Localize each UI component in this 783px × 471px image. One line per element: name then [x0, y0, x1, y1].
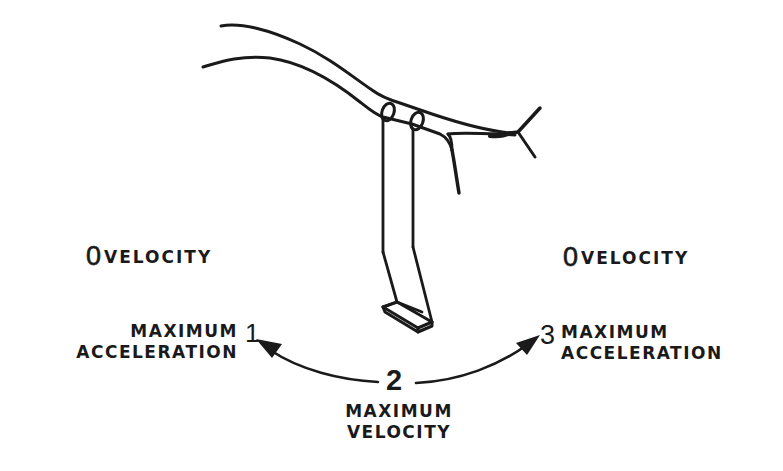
arrow-to-position-1	[270, 350, 378, 382]
position-3-label: MAXIMUM ACCELERATION	[561, 322, 723, 364]
position-3-line1: MAXIMUM	[561, 322, 723, 343]
arrow-to-position-3	[416, 344, 528, 383]
zero-velocity-right-label: 0VELOCITY	[563, 244, 689, 271]
position-2-label: MAXIMUM VELOCITY	[328, 401, 470, 443]
zero-velocity-left-label: 0VELOCITY	[86, 243, 212, 270]
swing-seat-icon	[383, 302, 432, 332]
velocity-word: VELOCITY	[581, 248, 689, 268]
position-3-number: 3	[540, 322, 555, 349]
position-2-line2: VELOCITY	[328, 422, 470, 443]
position-2-line1: MAXIMUM	[328, 401, 470, 422]
position-1-line2: ACCELERATION	[76, 342, 238, 363]
arrowhead-right-icon	[516, 335, 540, 355]
position-2-number: 2	[386, 366, 402, 395]
swing-ropes	[383, 120, 432, 322]
position-3-line2: ACCELERATION	[561, 343, 723, 364]
position-1-line1: MAXIMUM	[76, 321, 238, 342]
tree-branch-icon	[203, 25, 540, 193]
velocity-word: VELOCITY	[104, 247, 212, 267]
zero-digit: 0	[563, 242, 578, 272]
zero-digit: 0	[86, 241, 101, 271]
position-1-number: 1	[245, 320, 259, 346]
position-1-label: MAXIMUM ACCELERATION	[76, 321, 238, 363]
